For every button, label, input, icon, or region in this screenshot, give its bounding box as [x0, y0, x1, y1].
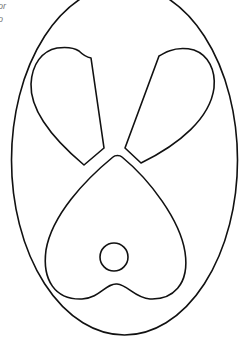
- outer-oval: [12, 0, 238, 335]
- small-circle: [100, 243, 128, 271]
- line-drawing: [0, 0, 245, 350]
- left-lobe: [31, 47, 104, 165]
- right-lobe: [125, 49, 214, 163]
- bottom-heart: [45, 156, 186, 300]
